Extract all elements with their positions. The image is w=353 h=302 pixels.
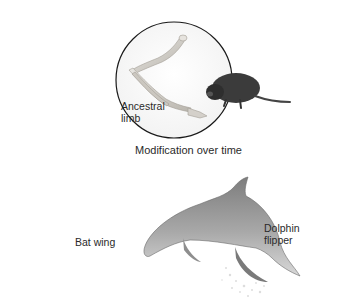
modification-over-time-label: Modification over time: [135, 144, 242, 156]
ancestral-limb-label: Ancestral limb: [121, 100, 165, 124]
dolphin-flipper-label: Dolphin flipper: [264, 222, 300, 246]
water-splash: [221, 267, 265, 297]
bat-wing-label: Bat wing: [75, 236, 115, 248]
